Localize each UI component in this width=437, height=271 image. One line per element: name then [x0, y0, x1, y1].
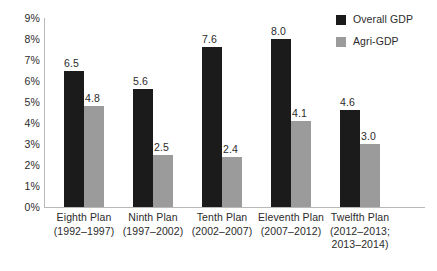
y-axis-tick-labels: 0%1%2%3%4%5%6%7%8%9%	[0, 0, 40, 271]
x-axis-category-label: Eighth Plan(1992–1997)	[46, 211, 122, 238]
y-axis-tick-label: 8%	[2, 34, 40, 45]
category-name: Eleventh Plan	[253, 211, 329, 225]
y-axis-tick-label: 0%	[2, 202, 40, 213]
x-axis-category-label: Ninth Plan(1997–2002)	[115, 211, 191, 238]
bar-value-label: 3.0	[361, 131, 376, 142]
y-axis-tick-label: 4%	[2, 118, 40, 129]
y-axis-tick-label: 3%	[2, 139, 40, 150]
x-axis-category-label: Eleventh Plan(2007–2012)	[253, 211, 329, 238]
legend-item-overall-gdp: Overall GDP	[336, 14, 413, 25]
bar-value-label: 4.6	[340, 97, 355, 108]
bar	[202, 47, 222, 207]
category-period: (1992–1997)	[46, 225, 122, 239]
legend-item-label: Overall GDP	[353, 14, 413, 25]
bar-group: 8.04.1	[271, 18, 311, 207]
bar	[291, 121, 311, 207]
bar-chart: 0%1%2%3%4%5%6%7%8%9% 6.54.85.62.57.62.48…	[0, 0, 437, 271]
y-axis-tick-label: 6%	[2, 76, 40, 87]
bar	[153, 155, 173, 208]
x-axis-line	[44, 207, 425, 208]
chart-legend: Overall GDP Agri-GDP	[336, 14, 413, 58]
bar	[222, 157, 242, 207]
category-period-line2: 2013–2014)	[322, 238, 398, 252]
category-name: Tenth Plan	[184, 211, 260, 225]
x-axis-category-label: Twelfth Plan(2012–2013;2013–2014)	[322, 211, 398, 252]
bar-value-label: 8.0	[271, 26, 286, 37]
legend-swatch-icon	[336, 15, 346, 25]
category-period: (1997–2002)	[115, 225, 191, 239]
bar-value-label: 2.4	[223, 144, 238, 155]
category-name: Twelfth Plan	[322, 211, 398, 225]
category-period: (2002–2007)	[184, 225, 260, 239]
category-period: (2012–2013;	[322, 225, 398, 239]
bar-value-label: 2.5	[154, 142, 169, 153]
x-axis-category-labels: Eighth Plan(1992–1997)Ninth Plan(1997–20…	[44, 211, 425, 271]
bar	[360, 144, 380, 207]
y-axis-tick-label: 2%	[2, 160, 40, 171]
bar-value-label: 7.6	[202, 34, 217, 45]
category-name: Ninth Plan	[115, 211, 191, 225]
bar-value-label: 5.6	[133, 76, 148, 87]
legend-item-agri-gdp: Agri-GDP	[336, 36, 413, 47]
legend-item-label: Agri-GDP	[353, 36, 399, 47]
bar-value-label: 6.5	[64, 58, 79, 69]
legend-swatch-icon	[336, 37, 346, 47]
bar-group: 7.62.4	[202, 18, 242, 207]
bar-group: 5.62.5	[133, 18, 173, 207]
bar-group: 6.54.8	[64, 18, 104, 207]
bar	[340, 110, 360, 207]
y-axis-tick-label: 9%	[2, 13, 40, 24]
category-name: Eighth Plan	[46, 211, 122, 225]
category-period: (2007–2012)	[253, 225, 329, 239]
bar	[84, 106, 104, 207]
bar	[271, 39, 291, 207]
bar	[64, 71, 84, 208]
y-axis-tick-label: 1%	[2, 181, 40, 192]
bar-value-label: 4.1	[292, 108, 307, 119]
bar	[133, 89, 153, 207]
bar-value-label: 4.8	[85, 93, 100, 104]
y-axis-tick-label: 7%	[2, 55, 40, 66]
y-axis-tick-label: 5%	[2, 97, 40, 108]
x-axis-category-label: Tenth Plan(2002–2007)	[184, 211, 260, 238]
